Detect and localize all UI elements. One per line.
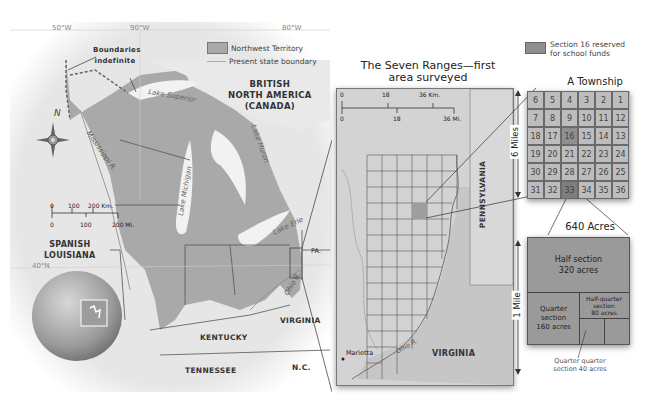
quarter-quarter-label: Quarter quarter section 40 acres bbox=[540, 357, 620, 373]
qq-pointer bbox=[0, 0, 651, 399]
